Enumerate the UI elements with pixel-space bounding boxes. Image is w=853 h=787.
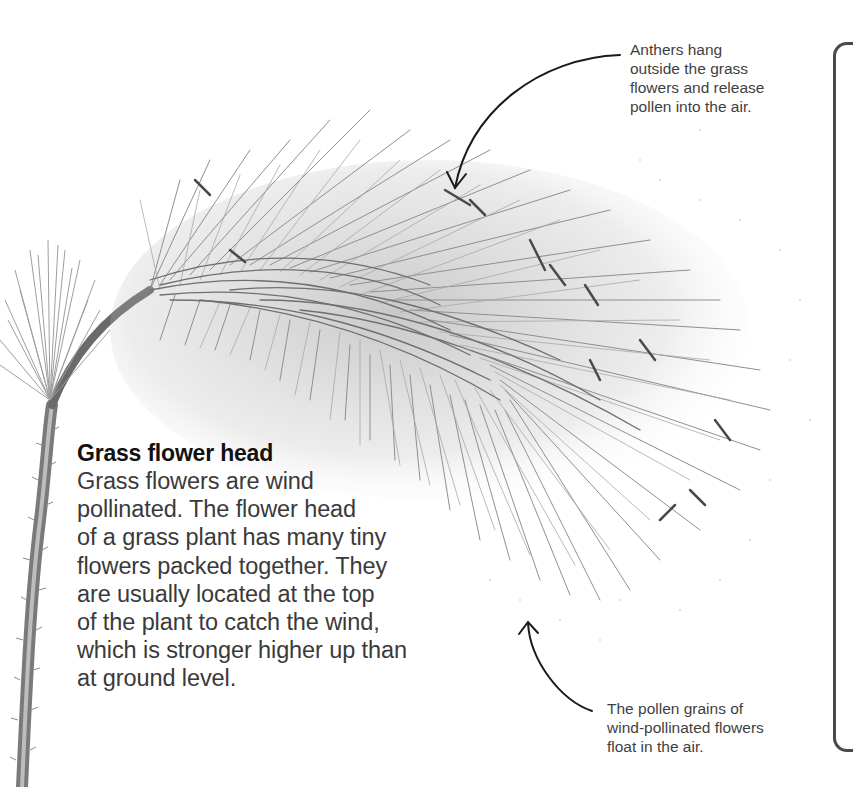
caption-body-line: Grass flowers are wind (77, 467, 497, 495)
annotation-line: outside the grass (630, 59, 764, 78)
caption-body-line: flowers packed together. They (77, 552, 497, 580)
annotation-line: The pollen grains of (607, 699, 764, 718)
side-panel-bracket (833, 42, 853, 752)
annotation-line: float in the air. (607, 737, 764, 756)
caption-body-line: which is stronger higher up than (77, 636, 497, 664)
caption-body-line: pollinated. The flower head (77, 495, 497, 523)
pollen-annotation: The pollen grains of wind-pollinated flo… (607, 699, 764, 756)
anthers-annotation: Anthers hang outside the grass flowers a… (630, 40, 764, 116)
caption-body-line: at ground level. (77, 664, 497, 692)
annotation-line: wind-pollinated flowers (607, 718, 764, 737)
lower-tuft (0, 240, 110, 400)
main-caption: Grass flower head Grass flowers are wind… (77, 439, 497, 693)
annotation-line: flowers and release (630, 78, 764, 97)
annotation-line: Anthers hang (630, 40, 764, 59)
caption-heading: Grass flower head (77, 439, 497, 467)
pollen-arrow (519, 622, 592, 711)
caption-body-line: of the plant to catch the wind, (77, 608, 497, 636)
annotation-line: pollen into the air. (630, 97, 764, 116)
caption-body-line: of a grass plant has many tiny (77, 523, 497, 551)
caption-body-line: are usually located at the top (77, 580, 497, 608)
